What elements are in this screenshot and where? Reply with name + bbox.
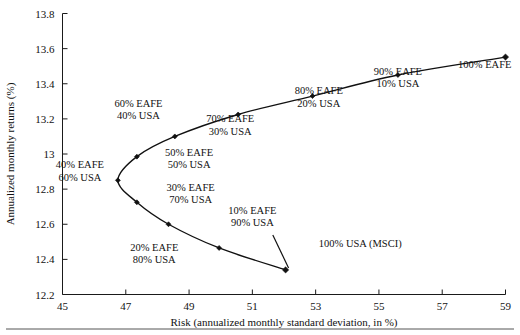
y-tick-label: 12.8: [35, 183, 55, 195]
data-point-marker: [217, 245, 222, 250]
chart-canvas: 12.212.412.612.81313.213.413.613.8454749…: [0, 0, 520, 335]
data-point-marker: [115, 178, 120, 183]
point-label-group: 30% EAFE70% USA: [167, 182, 215, 206]
y-tick-label: 13.4: [35, 78, 55, 90]
point-label-line2: 80% USA: [133, 254, 176, 265]
point-label-group: 10% EAFE90% USA: [228, 205, 276, 229]
point-label-line1: 60% EAFE: [114, 98, 162, 109]
point-label-line2: 40% USA: [117, 110, 160, 121]
y-axis-title: Annualized monthly returns (%): [4, 82, 17, 225]
point-label-line2: 20% USA: [297, 98, 340, 109]
data-point-marker: [282, 267, 288, 273]
point-label-group: 40% EAFE60% USA: [56, 159, 104, 183]
y-tick-label: 13: [44, 148, 56, 160]
y-tick-label: 12.4: [35, 253, 55, 265]
point-label-line1: 10% EAFE: [228, 205, 276, 216]
point-label-group: 60% EAFE40% USA: [114, 98, 162, 122]
point-label-line2: 30% USA: [209, 126, 252, 137]
point-label-group: 80% EAFE20% USA: [295, 85, 343, 109]
data-point-marker: [172, 134, 177, 139]
point-label-line1: 50% EAFE: [165, 147, 213, 158]
y-tick-label: 12.2: [35, 289, 54, 301]
x-tick-label: 57: [437, 300, 449, 312]
x-tick-label: 59: [500, 300, 512, 312]
point-label-group: 100% EAFE: [458, 59, 511, 70]
x-tick-label: 55: [373, 300, 385, 312]
y-tick-label: 12.6: [35, 218, 55, 230]
point-label-line2: 10% USA: [376, 78, 419, 89]
point-label-group: 90% EAFE10% USA: [374, 66, 422, 90]
point-labels: 100% USA (MSCI)10% EAFE90% USA20% EAFE80…: [56, 59, 512, 268]
x-tick-label: 45: [57, 300, 69, 312]
point-label-group: 70% EAFE30% USA: [206, 113, 254, 137]
point-label-line1: 30% EAFE: [167, 182, 215, 193]
x-tick-label: 47: [120, 300, 132, 312]
point-label-line1: 20% EAFE: [130, 242, 178, 253]
x-tick-label: 53: [310, 300, 322, 312]
y-tick-label: 13.6: [35, 43, 55, 55]
x-axis-title: Risk (annualized monthly standard deviat…: [171, 316, 398, 329]
point-label-group: 100% USA (MSCI): [319, 238, 402, 250]
point-label-line2: 50% USA: [168, 159, 211, 170]
y-tick-label: 13.8: [35, 8, 55, 20]
point-label-line1: 80% EAFE: [295, 85, 343, 96]
point-label-group: 50% EAFE50% USA: [165, 147, 213, 171]
efficient-frontier-chart: 12.212.412.612.81313.213.413.613.8454749…: [0, 0, 520, 335]
label-leader-line: [273, 235, 289, 268]
point-label-line2: 90% USA: [231, 217, 274, 228]
point-label-line1: 100% EAFE: [458, 59, 511, 70]
y-tick-label: 13.2: [35, 113, 54, 125]
point-label-line1: 100% USA (MSCI): [319, 238, 402, 250]
point-label-line2: 60% USA: [58, 172, 101, 183]
point-label-line2: 70% USA: [169, 194, 212, 205]
point-label-line1: 70% EAFE: [206, 113, 254, 124]
point-label-line1: 90% EAFE: [374, 66, 422, 77]
point-label-line1: 40% EAFE: [56, 159, 104, 170]
point-label-group: 20% EAFE80% USA: [130, 242, 178, 266]
x-tick-label: 49: [184, 300, 196, 312]
x-tick-label: 51: [247, 300, 258, 312]
